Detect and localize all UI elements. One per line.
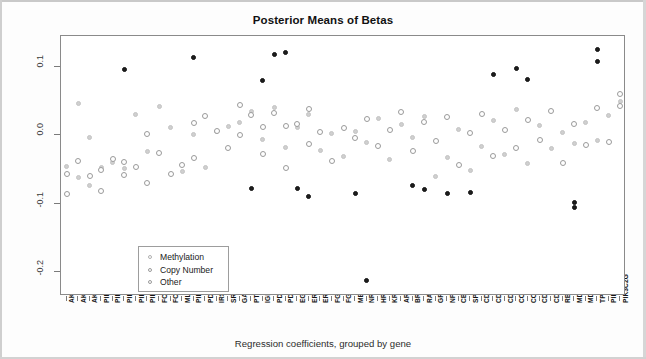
data-point (583, 142, 589, 148)
data-point (144, 180, 150, 186)
data-point (525, 117, 531, 123)
x-tick-mark (481, 296, 482, 301)
x-tick-mark (123, 296, 124, 301)
circle-icon (148, 268, 152, 272)
circle-icon (148, 255, 152, 259)
data-point (283, 145, 288, 150)
x-tick-mark (492, 296, 493, 301)
data-point (191, 132, 196, 137)
data-point (248, 112, 254, 118)
data-point (490, 153, 496, 159)
data-point (352, 135, 358, 141)
data-point (98, 167, 104, 173)
data-point (133, 112, 138, 117)
x-tick-mark (112, 296, 113, 301)
data-point (76, 175, 81, 180)
x-tick-mark (504, 296, 505, 301)
data-point (98, 188, 104, 194)
data-point (422, 187, 427, 192)
legend-item-other: Other (144, 276, 223, 289)
data-point (410, 148, 416, 154)
data-point (617, 103, 623, 109)
data-point (479, 111, 485, 117)
legend-marker-icon (144, 255, 156, 259)
scan-edge-top (0, 0, 646, 2)
x-tick-mark (573, 296, 574, 301)
x-tick-mark (250, 296, 251, 301)
x-tick-mark (66, 296, 67, 301)
x-tick-mark (146, 296, 147, 301)
x-tick-mark (435, 296, 436, 301)
figure-container: Posterior Means of Betas Posterior means… (0, 0, 646, 359)
data-point (157, 104, 162, 109)
data-point (572, 141, 577, 146)
data-point (353, 191, 358, 196)
x-tick-mark (285, 296, 286, 301)
data-point (387, 127, 393, 133)
data-point (110, 156, 116, 162)
data-point (191, 120, 197, 126)
plot-frame: MethylationCopy NumberOther (60, 35, 625, 295)
x-tick-mark (343, 296, 344, 301)
x-tick-mark (239, 296, 240, 301)
data-point (433, 138, 439, 144)
data-point (214, 128, 220, 134)
data-point (514, 66, 519, 71)
legend-label: Other (156, 277, 182, 287)
x-tick-mark (550, 296, 551, 301)
data-point (445, 191, 450, 196)
data-point (87, 173, 93, 179)
x-tick-mark (423, 296, 424, 301)
data-point (260, 124, 266, 130)
legend-marker-icon (144, 280, 156, 284)
data-point (237, 120, 242, 125)
y-tick-label: 0.1 (35, 55, 45, 75)
data-point (537, 137, 543, 143)
x-tick-mark (619, 296, 620, 301)
data-point (260, 78, 265, 83)
data-point (444, 114, 450, 120)
x-tick-mark (181, 296, 182, 301)
data-point (122, 166, 127, 171)
data-point (525, 77, 530, 82)
data-point (295, 186, 300, 191)
x-tick-mark (77, 296, 78, 301)
data-point (560, 160, 566, 166)
data-point (548, 108, 554, 114)
data-point (191, 155, 197, 161)
data-point (226, 124, 231, 129)
data-point (191, 55, 196, 60)
legend-label: Copy Number (156, 265, 213, 275)
data-point (283, 123, 289, 129)
data-point (180, 169, 185, 174)
x-tick-mark (227, 296, 228, 301)
data-point (329, 158, 335, 164)
data-point (502, 127, 508, 133)
data-point (75, 158, 81, 164)
circle-icon (148, 280, 152, 284)
data-point (306, 194, 311, 199)
data-point (456, 127, 461, 132)
data-point (306, 112, 311, 117)
x-tick-mark (458, 296, 459, 301)
data-point (237, 102, 243, 108)
x-tick-mark (273, 296, 274, 301)
data-point (514, 107, 519, 112)
data-point (595, 47, 600, 52)
x-tick-mark (585, 296, 586, 301)
data-point (387, 157, 392, 162)
data-point (202, 113, 208, 119)
data-point (456, 162, 462, 168)
data-point (179, 162, 185, 168)
x-tick-mark (389, 296, 390, 301)
x-tick-mark (89, 296, 90, 301)
x-tick-mark (158, 296, 159, 301)
data-point (87, 183, 92, 188)
data-point (168, 171, 174, 177)
x-tick-mark (204, 296, 205, 301)
x-tick-mark (170, 296, 171, 301)
data-point (329, 131, 334, 136)
data-point (318, 148, 323, 153)
data-point (122, 67, 127, 72)
data-point (225, 145, 231, 151)
